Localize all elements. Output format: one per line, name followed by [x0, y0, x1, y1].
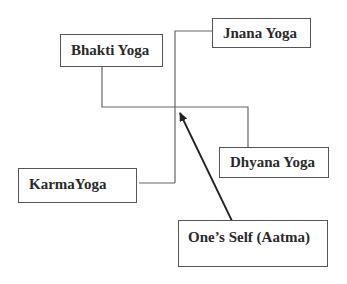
node-dhyana-yoga: Dhyana Yoga [219, 147, 329, 178]
node-jnana-yoga: Jnana Yoga [212, 18, 311, 48]
yoga-paths-diagram: Bhakti Yoga Jnana Yoga Dhyana Yoga Karma… [0, 0, 347, 284]
node-ones-self: One’s Self (Aatma) [178, 220, 328, 267]
node-label: Bhakti Yoga [71, 42, 149, 59]
node-label: One’s Self (Aatma) [188, 229, 310, 246]
node-karma-yoga: KarmaYoga [18, 168, 137, 203]
node-label: Dhyana Yoga [230, 154, 315, 171]
node-label: Jnana Yoga [223, 25, 297, 42]
node-label: KarmaYoga [29, 176, 107, 193]
node-bhakti-yoga: Bhakti Yoga [60, 34, 163, 67]
